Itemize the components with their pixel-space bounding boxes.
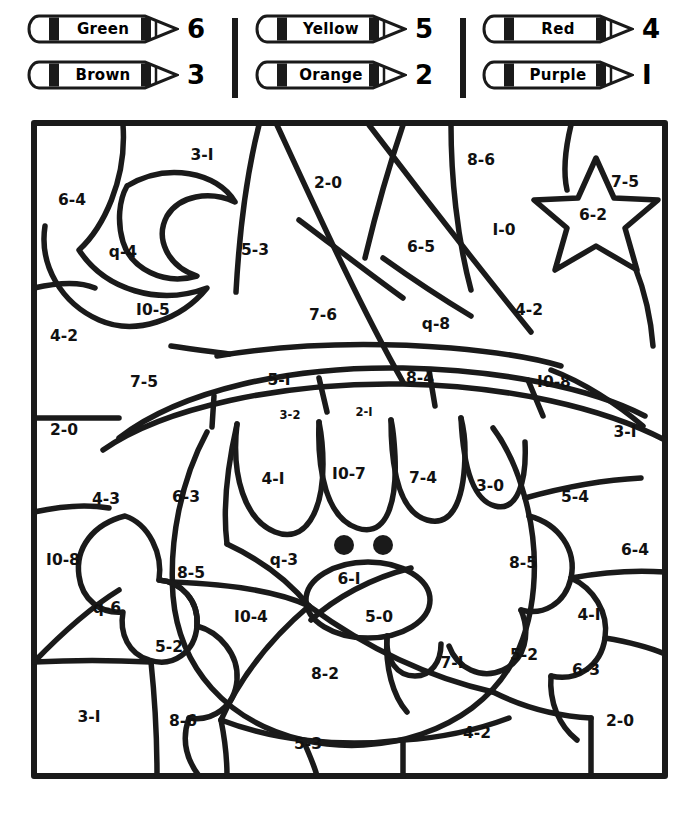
region-number: 8-5 <box>509 554 537 572</box>
region-number: 4-2 <box>463 724 491 742</box>
crayon-number: 3 <box>187 58 205 92</box>
crayon-color-name: Orange <box>289 60 373 90</box>
region-number: 7-4 <box>409 469 437 487</box>
region-number: 3-I <box>191 146 214 164</box>
region-number: I-0 <box>493 221 516 239</box>
legend-column-3: Red 4 Purple I <box>482 14 682 104</box>
region-number: 7-5 <box>130 373 158 391</box>
region-number: 3-I <box>614 423 637 441</box>
region-number: 6-I <box>338 570 361 588</box>
region-number: 3-2 <box>280 408 301 422</box>
region-number: 5-3 <box>294 735 322 753</box>
region-number: 8-4 <box>406 369 434 387</box>
region-number: 5-2 <box>155 638 183 656</box>
region-number: I0-5 <box>136 301 170 319</box>
region-number: 5-0 <box>365 608 393 626</box>
legend-item: Purple I <box>482 60 682 94</box>
region-number: 5-2 <box>510 646 538 664</box>
legend-item: Red 4 <box>482 14 682 48</box>
crayon-number: 5 <box>415 12 433 46</box>
crayon-number: 4 <box>642 12 660 46</box>
crayon-color-name: Yellow <box>289 14 373 44</box>
crayon-legend: Green 6 Brown 3 <box>0 14 699 104</box>
crayon-color-name: Purple <box>516 60 600 90</box>
region-number: 8-2 <box>311 665 339 683</box>
region-number: 2-0 <box>606 712 634 730</box>
region-number: 6-4 <box>58 191 86 209</box>
region-number: 7-I <box>441 654 464 672</box>
region-number: 6-3 <box>172 488 200 506</box>
region-number: 2-I <box>355 405 372 419</box>
region-number: q-4 <box>109 243 138 261</box>
crayon-number: I <box>642 58 652 92</box>
region-number: 8-5 <box>177 564 205 582</box>
legend-separator <box>232 18 238 98</box>
region-number: 4-3 <box>92 490 120 508</box>
region-number: q-6 <box>93 599 121 617</box>
region-number: 5-I <box>268 371 291 389</box>
legend-item: Yellow 5 <box>255 14 455 48</box>
region-number: 6-5 <box>407 238 435 256</box>
legend-column-2: Yellow 5 Orange 2 <box>255 14 455 104</box>
crayon-number: 2 <box>415 58 433 92</box>
crayon-color-name: Brown <box>61 60 145 90</box>
region-number: I0-8 <box>537 373 571 391</box>
puzzle-background <box>31 120 668 779</box>
region-number: 6-2 <box>579 206 607 224</box>
crayon-color-name: Red <box>516 14 600 44</box>
region-number: 5-3 <box>241 241 269 259</box>
region-number: 8-6 <box>467 151 495 169</box>
region-number: 6-3 <box>572 661 600 679</box>
region-number: 4-2 <box>515 301 543 319</box>
region-number: I0-8 <box>46 551 80 569</box>
legend-separator <box>460 18 466 98</box>
region-number: 5-4 <box>561 488 589 506</box>
crayon-color-name: Green <box>61 14 145 44</box>
region-number: 2-0 <box>50 421 78 439</box>
region-number: I0-7 <box>332 465 366 483</box>
legend-item: Green 6 <box>27 14 227 48</box>
puzzle-drawing: 3-I6-42-08-67-5q-45-36-5I-06-2I0-57-6q-8… <box>31 120 668 779</box>
region-number: 3-0 <box>476 477 504 495</box>
puzzle-area: 3-I6-42-08-67-5q-45-36-5I-06-2I0-57-6q-8… <box>31 120 668 779</box>
region-number: 7-6 <box>309 306 337 324</box>
legend-item: Brown 3 <box>27 60 227 94</box>
region-number: 7-5 <box>611 173 639 191</box>
region-number: 4-I <box>262 470 285 488</box>
region-number: 8-6 <box>169 712 197 730</box>
legend-column-1: Green 6 Brown 3 <box>27 14 227 104</box>
legend-item: Orange 2 <box>255 60 455 94</box>
region-number: 2-0 <box>314 174 342 192</box>
region-number: 6-4 <box>621 541 649 559</box>
region-number: 4-I <box>578 606 601 624</box>
region-number: I0-4 <box>234 608 268 626</box>
region-number: q-3 <box>270 551 298 569</box>
region-number: 3-I <box>78 708 101 726</box>
region-number: 4-2 <box>50 327 78 345</box>
region-number: q-8 <box>422 315 450 333</box>
crayon-number: 6 <box>187 12 205 46</box>
